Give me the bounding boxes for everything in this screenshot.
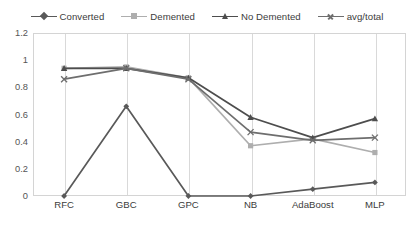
triangle-marker-icon [222,13,228,19]
series-converted [61,103,378,198]
x-tick-label-mlp: MLP [365,199,385,210]
chart-legend: Converted Demented No Demented avg/total [0,6,414,26]
x-axis: RFCGBCGPCNBAdaBoostMLP [33,199,406,219]
legend-item-no-demented: No Demented [212,11,301,22]
x-tick-label-gbc: GBC [116,199,137,210]
cross-marker-icon [327,13,334,20]
legend-label-demented: Demented [150,11,195,22]
legend-key-no-demented [212,11,238,22]
series-line [64,106,375,196]
square-marker-icon [131,13,137,19]
series-no-demented [61,65,378,140]
legend-key-avg-total [318,11,344,22]
data-point [248,143,253,148]
legend-label-no-demented: No Demented [241,11,301,22]
legend-label-avg-total: avg/total [347,11,384,22]
series-layer [33,33,406,196]
y-tick-label: 0.2 [15,164,28,174]
series-line [64,68,375,137]
legend-label-converted: Converted [60,11,105,22]
legend-item-demented: Demented [121,11,195,22]
line-chart: Converted Demented No Demented avg/total… [0,0,414,229]
y-tick-label: 0.6 [15,110,28,120]
data-point [372,150,377,155]
x-tick-label-nb: NB [244,199,257,210]
data-point [372,115,378,121]
x-tick-label-adaboost: AdaBoost [292,199,334,210]
y-tick-label: 0.4 [15,137,28,147]
legend-key-demented [121,11,147,22]
y-tick-label: 1.2 [15,28,28,38]
x-tick-label-gpc: GPC [178,199,199,210]
x-tick-label-rfc: RFC [54,199,74,210]
y-tick-label: 0 [23,191,28,201]
y-tick-label: 1 [23,55,28,65]
data-point [372,180,378,186]
legend-item-avg-total: avg/total [318,11,384,22]
legend-item-converted: Converted [31,11,105,22]
y-tick-label: 0.8 [15,82,28,92]
y-axis: 00.20.40.60.811.2 [0,33,31,196]
legend-key-converted [31,11,57,22]
diamond-marker-icon [39,12,47,20]
data-point [310,186,316,192]
series-demented [61,64,377,155]
